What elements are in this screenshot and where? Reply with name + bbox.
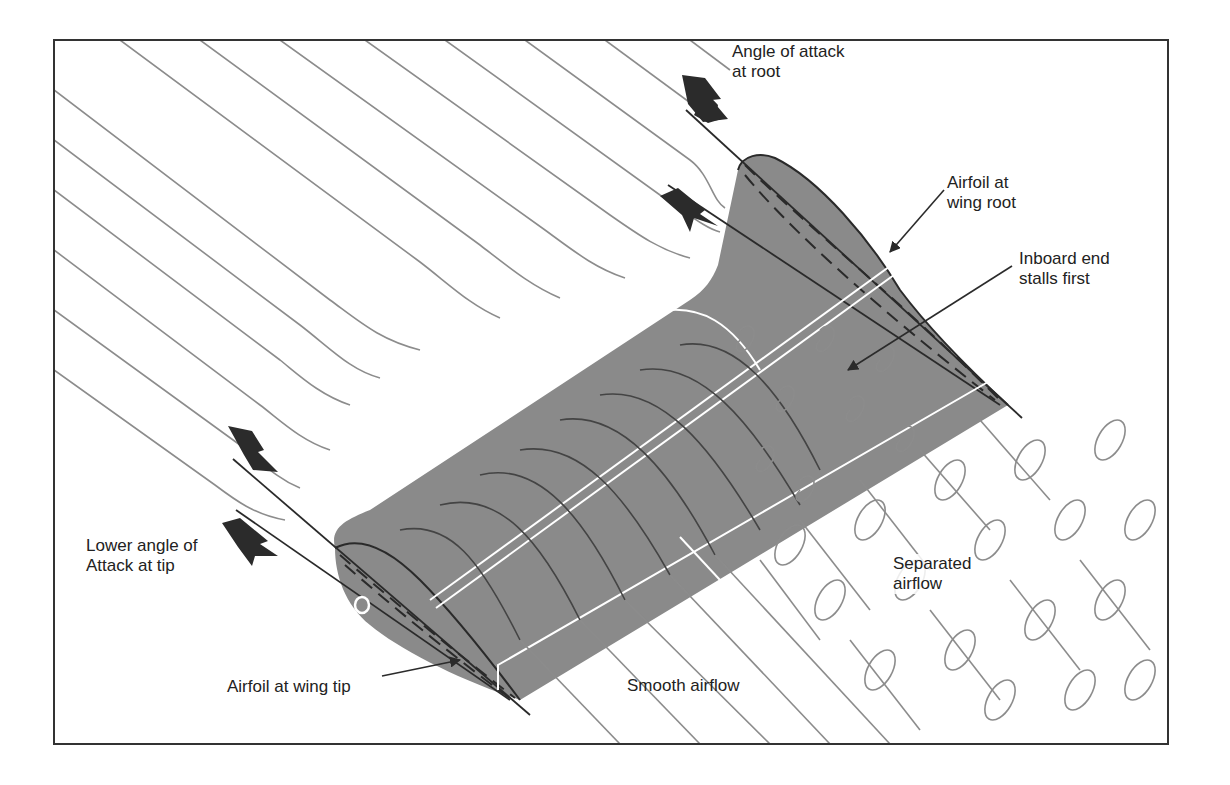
wing-body	[334, 155, 1008, 700]
label-lower-angle-tip: Lower angle of Attack at tip	[86, 536, 198, 576]
root-arrow-up-icon	[660, 188, 718, 232]
label-separated-airflow: Separated airflow	[893, 554, 971, 594]
wing-stall-diagram	[0, 0, 1230, 785]
label-airfoil-tip: Airfoil at wing tip	[227, 677, 351, 697]
root-arrow-down-icon-b	[682, 75, 728, 122]
label-smooth-airflow: Smooth airflow	[627, 676, 739, 696]
tip-arrow-down-icon	[228, 426, 278, 472]
label-airfoil-root: Airfoil at wing root	[947, 173, 1016, 213]
tip-light-marker	[355, 597, 369, 613]
label-angle-root: Angle of attack at root	[732, 42, 844, 82]
label-inboard-stall: Inboard end stalls first	[1019, 249, 1110, 289]
tip-arrow-up-icon	[222, 518, 278, 566]
